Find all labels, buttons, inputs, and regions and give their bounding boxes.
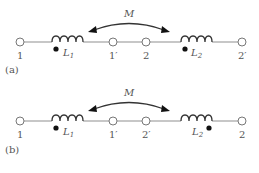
mutual-label: M <box>123 87 135 98</box>
terminal-1 <box>16 117 24 125</box>
terminal-2-prime <box>142 117 150 125</box>
polarity-dot-l1 <box>53 125 58 130</box>
polarity-dot-l2 <box>182 46 187 51</box>
inductor-l2-coil <box>181 36 212 42</box>
terminal-label: 1′ <box>109 50 118 61</box>
arrowhead-right-icon <box>161 105 170 112</box>
part-caption: (a) <box>5 64 19 75</box>
mutual-label: M <box>123 8 135 19</box>
inductor-label: L2 <box>190 47 203 60</box>
terminal-label: 1′ <box>109 129 118 140</box>
inductor-l1-coil <box>52 115 83 121</box>
part-caption: (b) <box>5 144 19 155</box>
terminal-label: 1 <box>17 129 23 140</box>
inductor-label: L1 <box>62 47 74 60</box>
terminal-label: 1 <box>17 50 23 61</box>
terminal-2 <box>142 38 150 46</box>
inductor-l1-coil <box>52 36 83 42</box>
arrowhead-left-icon <box>88 105 97 112</box>
polarity-dot-l2 <box>206 125 211 130</box>
terminal-1-prime <box>109 117 117 125</box>
terminal-label: 2 <box>239 129 245 140</box>
circuit-a: M 1 1′ 2 2′ L1 L2 (a) <box>5 8 247 75</box>
polarity-dot-l1 <box>53 46 58 51</box>
circuit-b: M 1 1′ 2′ 2 L1 L2 (b) <box>5 87 246 155</box>
terminal-1-prime <box>109 38 117 46</box>
terminal-2-prime <box>238 38 246 46</box>
inductor-label: L2 <box>191 126 204 139</box>
inductor-label: L1 <box>62 126 74 139</box>
terminal-label: 2′ <box>142 129 151 140</box>
mutual-inductance-arc <box>94 24 164 31</box>
inductor-l2-coil <box>181 115 212 121</box>
arrowhead-left-icon <box>88 26 97 33</box>
arrowhead-right-icon <box>161 26 170 33</box>
terminal-label: 2′ <box>238 50 247 61</box>
terminal-label: 2 <box>143 50 149 61</box>
terminal-2 <box>238 117 246 125</box>
coupled-inductors-diagram: M 1 1′ 2 2′ L1 L2 (a) M 1 1′ <box>0 0 259 173</box>
mutual-inductance-arc <box>94 103 164 110</box>
terminal-1 <box>16 38 24 46</box>
